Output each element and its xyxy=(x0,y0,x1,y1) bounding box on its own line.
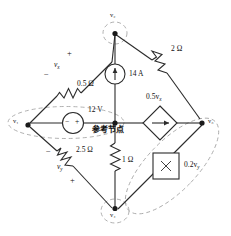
node-label-v1: v₁ xyxy=(13,118,19,125)
source-12v-minus-sign: − xyxy=(65,118,69,126)
dep-i-text: 0.5v xyxy=(146,92,159,101)
circuit-diagram: v₁ v₂ v₃ v₄ 参考节点 0.5 Ω 2 Ω 2.5 Ω 1 Ω 14 … xyxy=(0,0,231,236)
branch-v1-v4-resistor xyxy=(30,127,112,208)
resistor-2-label: 2 Ω xyxy=(171,45,182,53)
source-12v-plus-sign: + xyxy=(75,118,79,126)
vy-minus-sign: − xyxy=(46,147,51,156)
branch-ref-v3-dependent-source xyxy=(117,106,201,140)
vx-sub: x xyxy=(57,64,59,70)
node-dot-v3 xyxy=(199,120,204,125)
voltage-vx-label: vx xyxy=(54,61,60,69)
node-label-v2: v₂ xyxy=(110,12,116,19)
branch-v2-v3-resistor xyxy=(115,34,200,119)
dependent-current-source-label: 0.5vx xyxy=(146,93,161,101)
branch-ref-v4-resistor xyxy=(111,125,121,207)
node-label-v4: v₄ xyxy=(110,212,116,219)
dep-b-text: 0.2v xyxy=(184,160,197,169)
vx-minus-sign: − xyxy=(44,70,49,79)
resistor-0p5-label: 0.5 Ω xyxy=(77,80,94,88)
dependent-source-box-label: 0.2vy xyxy=(184,161,199,169)
vy-sub: y xyxy=(60,166,62,172)
voltage-vy-label: vy xyxy=(57,163,63,171)
vy-plus-sign: + xyxy=(70,176,75,185)
resistor-1-label: 1 Ω xyxy=(122,156,133,164)
branch-v2-ref-source xyxy=(105,34,125,121)
node-dot-v1 xyxy=(25,122,30,127)
node-dot-v2 xyxy=(112,31,117,36)
resistor-2p5-label: 2.5 Ω xyxy=(76,146,93,154)
vx-plus-sign: + xyxy=(67,49,72,58)
reference-node-label: 参考节点 xyxy=(92,126,124,134)
current-source-14a-label: 14 A xyxy=(129,70,143,78)
circuit-schematic-svg xyxy=(0,0,231,236)
node-label-v3: v₃ xyxy=(208,118,214,125)
voltage-source-12v-label: 12 V xyxy=(88,106,103,114)
dependent-source-box-0p2vy xyxy=(153,153,179,179)
